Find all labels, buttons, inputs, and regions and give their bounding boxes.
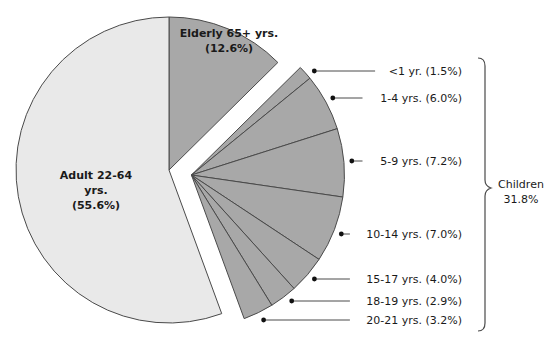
children-total: 31.8% [504, 193, 539, 206]
callout-label: 1-4 yrs. (6.0%) [380, 92, 462, 105]
elderly-label: Elderly 65+ yrs. [180, 27, 279, 40]
callout-dot [289, 299, 294, 304]
callout-dot [261, 318, 266, 323]
callout-label: 15-17 yrs. (4.0%) [366, 273, 462, 286]
adult-percent: (55.6%) [72, 199, 120, 212]
adult-label: Adult 22-64 [60, 169, 133, 182]
callout-label: 10-14 yrs. (7.0%) [366, 228, 462, 241]
callout-dot [339, 232, 344, 237]
callout-dot [330, 96, 335, 101]
callout-label: 20-21 yrs. (3.2%) [366, 314, 462, 327]
callout-dot [312, 277, 317, 282]
children-brace [478, 58, 491, 331]
callout-dot [312, 69, 317, 74]
callout-label: <1 yr. (1.5%) [389, 65, 462, 78]
callout-dot [349, 159, 354, 164]
children-label: Children [498, 178, 544, 191]
pie-chart: <1 yr. (1.5%)1-4 yrs. (6.0%)5-9 yrs. (7.… [0, 0, 550, 347]
callout-label: 18-19 yrs. (2.9%) [366, 295, 462, 308]
elderly-percent: (12.6%) [205, 42, 253, 55]
callout-label: 5-9 yrs. (7.2%) [380, 155, 462, 168]
adult-label-unit: yrs. [84, 184, 107, 197]
